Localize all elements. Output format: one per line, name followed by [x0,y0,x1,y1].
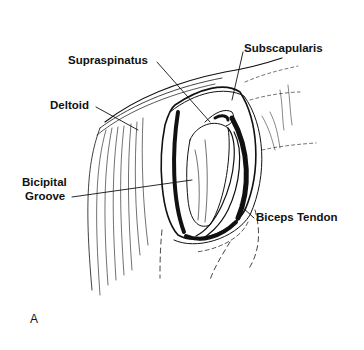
label-subscapularis: Subscapularis [244,42,323,55]
anatomy-figure: Supraspinatus Subscapularis Deltoid Bici… [0,0,364,350]
label-groove: Groove [25,190,65,203]
label-supraspinatus: Supraspinatus [68,54,148,67]
label-biceps-tendon: Biceps Tendon [256,211,338,224]
label-bicipital: Bicipital [22,176,67,189]
panel-letter: A [30,312,38,326]
label-deltoid: Deltoid [50,99,89,112]
